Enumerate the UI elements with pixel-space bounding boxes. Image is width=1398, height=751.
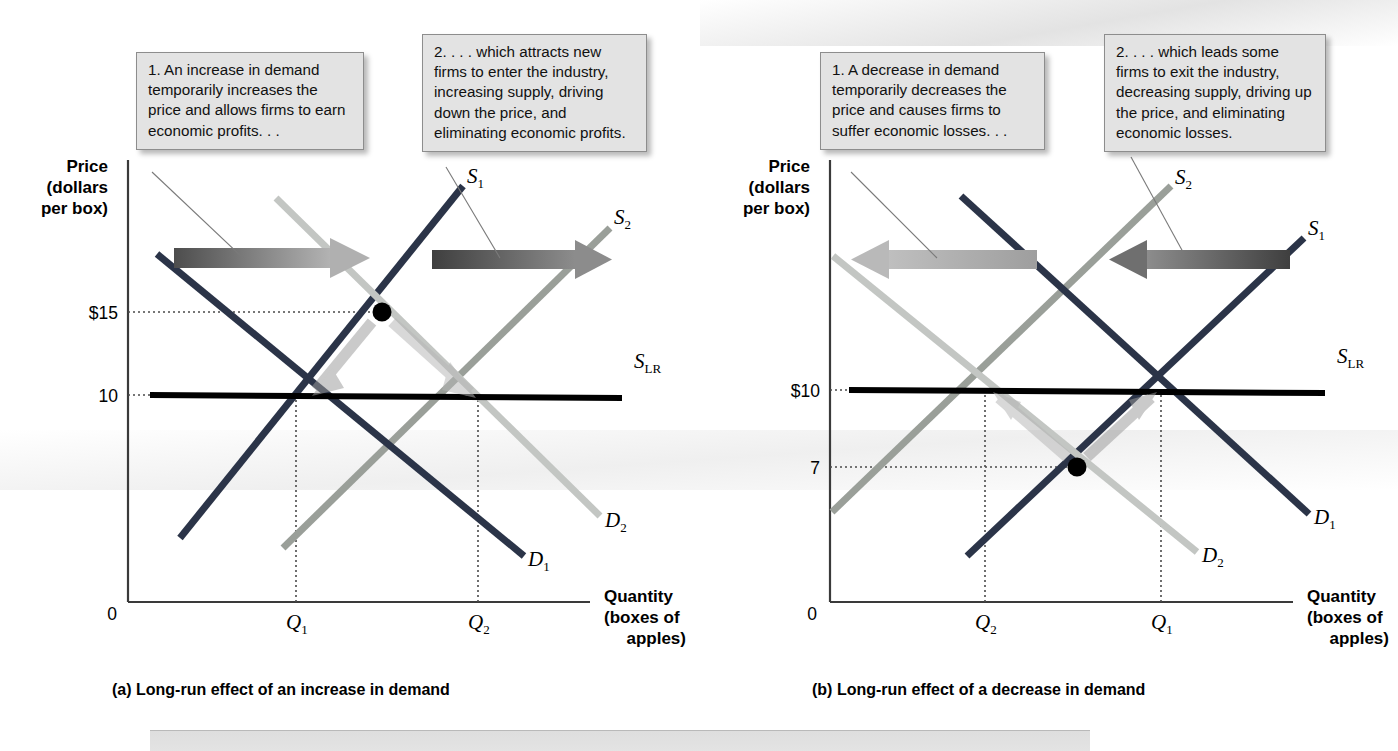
callout-panel-a-step-1: 1. An increase in demand temporarily inc… [136,52,364,150]
panel-a-x-axis-title-line1: Quantity [604,587,673,606]
demand-shift-arrow-panel-b [851,240,1037,279]
page-edge-artifact [150,730,1090,751]
label-s1-panel-b: S1 [1308,216,1325,243]
panel-a-caption: (a) Long-run effect of an increase in de… [112,681,450,699]
panel-a-axes [128,160,590,602]
label-d1-panel-b: D1 [1313,505,1336,532]
label-s2-panel-a: S2 [614,205,631,232]
panel-b-shift-arrows [851,240,1290,279]
panel-b-axes [830,160,1293,602]
panel-b-origin-label: 0 [807,604,817,624]
panel-b-adjustment-arrows [993,392,1157,457]
equilibrium-point-panel-b [1068,458,1087,477]
demand-shift-arrow-panel-a [174,238,370,278]
panel-a-adjustment-arrows [312,322,476,398]
panel-a-y-axis-title-line1: Price [66,157,108,176]
panel-a-x-axis-title-line2: (boxes of [604,608,680,627]
callout-panel-b-step-2: 2. . . . which leads some firms to exit … [1104,34,1326,152]
panel-b-price-tick-10: $10 [791,381,820,401]
panel-b-x-axis-title-line2: (boxes of [1307,608,1383,627]
callout-panel-b-step-1: 1. A decrease in demand temporarily decr… [820,52,1045,150]
label-slr-panel-b: SLR [1337,344,1364,371]
panel-b-x-axis-title-line3: apples) [1329,629,1389,648]
curve-slr-panel-b [849,390,1325,393]
panel-a-quantity-tick-q2: Q2 [468,610,490,637]
curve-d1-panel-a [157,254,524,556]
supply-shift-arrow-panel-a [432,240,612,279]
label-d2-panel-a: D2 [604,508,627,535]
panel-a-price-tick-10: 10 [99,386,119,406]
panel-b-quantity-tick-q1: Q1 [1151,610,1173,637]
equilibrium-point-panel-a [373,303,392,322]
label-s2-panel-b: S2 [1175,165,1192,192]
panel-b-price-tick-7: 7 [810,458,820,478]
panel-b-y-axis-title-line3: per box) [743,199,810,218]
panel-a-y-axis-title-line3: per box) [41,199,108,218]
panel-b-quantity-tick-q2: Q2 [975,610,997,637]
callout-panel-a-step-2: 2. . . . which attracts new firms to ent… [422,34,647,152]
label-d1-panel-a: D1 [527,547,550,574]
panel-b-y-axis-title-line2: (dollars [749,178,810,197]
panel-a-y-axis-title-line2: (dollars [47,178,108,197]
panel-b-curves [832,186,1325,556]
curve-s1-panel-b [967,238,1304,556]
panel-a-quantity-tick-q1: Q1 [286,610,308,637]
panel-a-curves [150,186,622,556]
panel-b-caption: (b) Long-run effect of a decrease in dem… [812,681,1145,699]
curve-slr-panel-a [150,395,622,398]
label-d2-panel-b: D2 [1201,543,1224,570]
label-s1-panel-a: S1 [467,164,484,191]
curve-d1-panel-b [961,196,1309,514]
panel-a-price-tick-15: $15 [89,303,118,323]
panel-a-origin-label: 0 [107,604,117,624]
panel-b-x-axis-title-line1: Quantity [1307,587,1376,606]
label-slr-panel-a: SLR [634,349,661,376]
panel-b-y-axis-title-line1: Price [768,157,810,176]
panel-a-x-axis-title-line3: apples) [626,629,686,648]
